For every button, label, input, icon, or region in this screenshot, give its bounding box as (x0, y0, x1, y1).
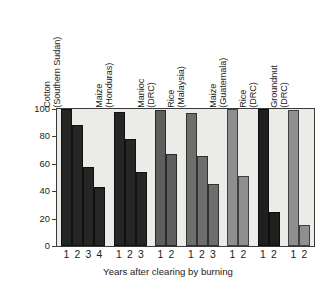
y-tick-mark (52, 136, 56, 137)
bar (197, 156, 208, 246)
bar (166, 154, 177, 246)
crop-location: (DRC) (146, 79, 156, 108)
crop-name: Rice (238, 82, 248, 108)
bar (238, 176, 249, 246)
bar (125, 139, 136, 246)
bar (61, 109, 72, 246)
crop-location: (DRC) (249, 82, 259, 108)
y-tick-mark (52, 109, 56, 110)
bar (258, 109, 269, 246)
y-tick-mark (52, 246, 56, 247)
bar (94, 187, 105, 246)
crop-header-maize-4: Maize(Guatemala) (208, 58, 229, 108)
x-tick-label: 1 (288, 249, 299, 260)
y-tick-label: 80 (40, 130, 50, 141)
x-tick-label: 2 (269, 249, 280, 260)
bar (299, 225, 310, 246)
bar (269, 212, 280, 246)
bars-container (57, 109, 314, 246)
crop-name: Rice (166, 67, 176, 108)
y-tick-label: 100 (34, 103, 50, 114)
bar (136, 172, 147, 246)
bar-chart-figure: Cotton(Southern Sudan)Maize(Honduras)Man… (0, 0, 336, 293)
x-tick-label: 4 (94, 249, 105, 260)
bar (114, 112, 125, 246)
crop-header-maize-1: Maize(Honduras) (94, 63, 115, 108)
crop-location: (Honduras) (105, 63, 115, 108)
y-tick: 40 (0, 191, 56, 192)
y-tick: 100 (0, 109, 56, 110)
crop-header-manioc-2: Manioc(DRC) (136, 79, 157, 108)
x-tick-label: 1 (114, 249, 125, 260)
bar (72, 125, 83, 246)
crop-header-groundnut-6: Groundnut(DRC) (269, 65, 290, 108)
bar (186, 113, 197, 246)
plot-area (56, 108, 315, 247)
crop-name: Cotton (42, 37, 52, 108)
x-tick-label: 1 (155, 249, 166, 260)
y-tick-label: 60 (40, 158, 50, 169)
y-tick: 20 (0, 219, 56, 220)
crop-header-row: Cotton(Southern Sudan)Maize(Honduras)Man… (0, 0, 336, 108)
x-tick-label: 2 (197, 249, 208, 260)
x-tick-label: 2 (125, 249, 136, 260)
bar (83, 167, 94, 246)
crop-location: (DRC) (279, 65, 289, 108)
crop-location: (Guatemala) (218, 58, 228, 108)
y-tick: 80 (0, 136, 56, 137)
y-tick-mark (52, 164, 56, 165)
x-tick-labels: 123412312123121212 (56, 249, 315, 262)
crop-header-rice-3: Rice(Malaysia) (166, 67, 187, 108)
y-tick-mark (52, 191, 56, 192)
crop-location: (Malaysia) (177, 67, 187, 108)
y-tick-label: 0 (45, 240, 50, 251)
y-tick-mark (52, 219, 56, 220)
x-tick-label: 1 (258, 249, 269, 260)
crop-name: Maize (208, 58, 218, 108)
x-tick-label: 1 (61, 249, 72, 260)
y-tick: 60 (0, 164, 56, 165)
y-tick-label: 40 (40, 185, 50, 196)
bar (227, 109, 238, 246)
x-tick-label: 3 (208, 249, 219, 260)
crop-location: (Southern Sudan) (52, 37, 62, 108)
crop-header-cotton-0: Cotton(Southern Sudan) (42, 37, 63, 108)
y-tick-label: 20 (40, 213, 50, 224)
x-tick-label: 3 (83, 249, 94, 260)
crop-name: Groundnut (269, 65, 279, 108)
x-tick-label: 1 (186, 249, 197, 260)
bar (155, 110, 166, 246)
x-tick-label: 2 (166, 249, 177, 260)
x-tick-label: 3 (136, 249, 147, 260)
x-tick-label: 2 (72, 249, 83, 260)
bar (288, 110, 299, 246)
bar (208, 184, 219, 246)
crop-header-rice-5: Rice(DRC) (238, 82, 259, 108)
x-tick-label: 1 (227, 249, 238, 260)
y-tick: 0 (0, 246, 56, 247)
crop-name: Manioc (136, 79, 146, 108)
x-axis-label: Years after clearing by burning (0, 266, 336, 277)
x-tick-label: 2 (299, 249, 310, 260)
crop-name: Maize (94, 63, 104, 108)
x-tick-label: 2 (238, 249, 249, 260)
